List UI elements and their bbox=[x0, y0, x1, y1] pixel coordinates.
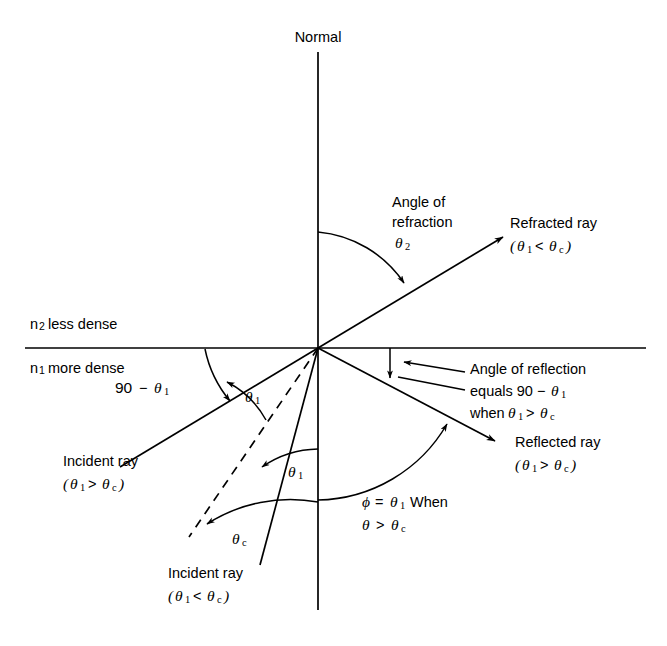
angle-of-reflection-line2-prefix: equals 90 bbox=[470, 383, 533, 399]
medium-lower-symbol: n bbox=[30, 360, 38, 376]
incident-ray-steep-theta1: θ bbox=[70, 475, 78, 492]
reflected-ray-close-paren: ) bbox=[570, 456, 576, 474]
refracted-ray-close-paren: ) bbox=[565, 237, 571, 255]
incident-ray-steep-open-paren: ( bbox=[63, 475, 69, 493]
incident-ray-shallow-theta1: θ bbox=[175, 587, 183, 604]
phi-when: When bbox=[410, 494, 448, 510]
reflected-ray-operator: > bbox=[540, 457, 548, 473]
theta-c-arc bbox=[207, 499, 318, 524]
angle-of-reflection-line2-theta: θ bbox=[551, 382, 559, 399]
diagram-canvas: Normal n 2 less dense n 1 more dense Ang… bbox=[0, 0, 667, 646]
refracted-ray-theta1: θ bbox=[517, 237, 525, 254]
reflected-ray-line1: Reflected ray bbox=[515, 434, 601, 450]
reflection-leader-upper bbox=[404, 362, 465, 372]
phi-line2-sub: c bbox=[401, 523, 406, 534]
angle-of-reflection-line3-sub1: 1 bbox=[518, 411, 523, 422]
theta1-lower-label: θ 1 bbox=[288, 463, 303, 481]
refracted-ray-sub1: 1 bbox=[527, 244, 532, 255]
refracted-ray-line1: Refracted ray bbox=[510, 215, 598, 231]
ninety-minus-theta1-label: 90 − θ 1 bbox=[115, 379, 169, 397]
theta-c-subscript: c bbox=[242, 537, 247, 548]
phi-arc bbox=[318, 424, 447, 500]
incident-ray-steep-sub1: 1 bbox=[80, 482, 85, 493]
medium-upper-symbol: n bbox=[30, 316, 38, 332]
theta1-upper-subscript: 1 bbox=[255, 395, 260, 406]
incident-ray-shallow-theta2: θ bbox=[207, 587, 215, 604]
medium-lower-label: n 1 more dense bbox=[30, 360, 125, 376]
medium-upper-text: less dense bbox=[48, 316, 117, 332]
incident-ray-steep-line1: Incident ray bbox=[63, 453, 139, 469]
critical-angle-dashed-ray bbox=[189, 348, 318, 537]
theta2-symbol: θ bbox=[395, 234, 403, 251]
reflected-ray-sub2: c bbox=[564, 463, 569, 474]
refraction-diagram: Normal n 2 less dense n 1 more dense Ang… bbox=[0, 0, 667, 646]
angle-of-reflection-line3-op: > bbox=[526, 405, 534, 421]
angle-of-reflection-line3-theta: θ bbox=[508, 404, 516, 421]
medium-lower-text: more dense bbox=[48, 360, 125, 376]
refracted-ray-line bbox=[318, 237, 503, 348]
angle-of-refraction-line1: Angle of bbox=[392, 194, 446, 210]
ninety-theta-symbol: θ bbox=[154, 379, 162, 396]
reflected-ray-theta2: θ bbox=[554, 456, 562, 473]
ninety-minus-sign: − bbox=[139, 380, 147, 396]
angle-of-refraction-line2: refraction bbox=[392, 214, 452, 230]
incident-ray-shallow-sub1: 1 bbox=[185, 594, 190, 605]
theta-c-symbol: θ bbox=[232, 530, 240, 547]
incident-ray-shallow-label: Incident ray ( θ 1 < θ c ) bbox=[168, 565, 244, 605]
incident-ray-shallow-line1: Incident ray bbox=[168, 565, 244, 581]
theta1-upper-label: θ 1 bbox=[245, 388, 260, 406]
incident-ray-steep-label: Incident ray ( θ 1 > θ c ) bbox=[63, 453, 139, 493]
ninety-minus-theta1-arc bbox=[205, 349, 230, 401]
reflected-ray-sub1: 1 bbox=[532, 463, 537, 474]
phi-symbol: ϕ bbox=[362, 493, 370, 510]
incident-ray-steep-sub2: c bbox=[112, 482, 117, 493]
medium-upper-subscript: 2 bbox=[39, 320, 45, 332]
ninety-number: 90 bbox=[115, 379, 133, 396]
angle-of-reflection-line2-sub: 1 bbox=[561, 389, 566, 400]
phi-theta-sub: 1 bbox=[400, 500, 405, 511]
refracted-ray-label: Refracted ray ( θ 1 < θ c ) bbox=[510, 215, 598, 255]
incident-ray-shallow-close-paren: ) bbox=[223, 587, 229, 605]
angle-of-reflection-line1: Angle of reflection bbox=[470, 361, 586, 377]
theta-c-label: θ c bbox=[232, 530, 247, 548]
theta1-lower-symbol: θ bbox=[288, 463, 296, 480]
refracted-ray-open-paren: ( bbox=[510, 237, 516, 255]
phi-note-label: ϕ = θ 1 When θ > θ c bbox=[362, 493, 448, 534]
refracted-ray-theta2: θ bbox=[549, 237, 557, 254]
theta2-subscript: 2 bbox=[405, 241, 410, 252]
incident-ray-shallow-sub2: c bbox=[217, 594, 222, 605]
reflected-ray-theta1: θ bbox=[522, 456, 530, 473]
angle-of-reflection-label: Angle of reflection equals 90 − θ 1 when… bbox=[469, 361, 586, 422]
phi-equals: = bbox=[375, 494, 383, 510]
refracted-ray-operator: < bbox=[535, 238, 543, 254]
reflected-ray-open-paren: ( bbox=[515, 456, 521, 474]
phi-line2-op: > bbox=[376, 517, 384, 533]
medium-upper-label: n 2 less dense bbox=[30, 316, 117, 332]
medium-lower-subscript: 1 bbox=[39, 364, 45, 376]
incident-ray-steep-line bbox=[120, 348, 318, 467]
ninety-theta-subscript: 1 bbox=[164, 386, 169, 397]
incident-ray-shallow-line bbox=[260, 348, 318, 565]
theta1-upper-symbol: θ bbox=[245, 388, 253, 405]
phi-line2-theta: θ bbox=[362, 516, 370, 533]
angle-of-reflection-line2-minus: − bbox=[537, 383, 545, 399]
angle-of-reflection-line3-sub2: c bbox=[550, 411, 555, 422]
incident-ray-steep-theta2: θ bbox=[102, 475, 110, 492]
angle-of-reflection-line3-prefix: when bbox=[469, 405, 505, 421]
normal-label: Normal bbox=[295, 29, 342, 45]
incident-ray-shallow-open-paren: ( bbox=[168, 587, 174, 605]
incident-ray-shallow-operator: < bbox=[193, 588, 201, 604]
incident-ray-steep-operator: > bbox=[88, 476, 96, 492]
theta1-lower-subscript: 1 bbox=[298, 470, 303, 481]
incident-ray-steep-close-paren: ) bbox=[118, 475, 124, 493]
angle-of-refraction-label: Angle of refraction θ 2 bbox=[392, 194, 452, 252]
reflection-leader-lower bbox=[398, 377, 465, 390]
reflected-ray-label: Reflected ray ( θ 1 > θ c ) bbox=[515, 434, 601, 474]
angle-of-reflection-line3-theta2: θ bbox=[540, 404, 548, 421]
angle-of-refraction-arc bbox=[318, 232, 404, 283]
phi-line2-theta2: θ bbox=[391, 516, 399, 533]
refracted-ray-sub2: c bbox=[559, 244, 564, 255]
phi-theta: θ bbox=[390, 493, 398, 510]
